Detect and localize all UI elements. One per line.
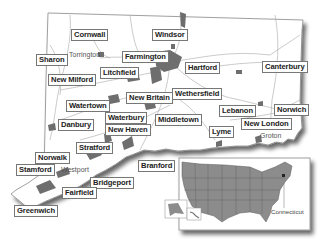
label-lyme: Lyme bbox=[209, 126, 234, 138]
label-connecticut-inset: Connecticut bbox=[271, 208, 304, 215]
label-new-britain: New Britain bbox=[126, 92, 173, 104]
label-cornwall: Cornwall bbox=[71, 29, 108, 41]
label-fairfield: Fairfield bbox=[62, 187, 97, 199]
label-litchfield: Litchfield bbox=[100, 67, 139, 79]
label-middletown: Middletown bbox=[155, 114, 202, 126]
label-new-haven: New Haven bbox=[105, 124, 151, 136]
connecticut-highlight bbox=[282, 174, 285, 177]
label-lebanon: Lebanon bbox=[219, 105, 256, 117]
us-inset-map bbox=[165, 158, 310, 230]
label-danbury: Danbury bbox=[58, 119, 94, 131]
label-greenwich: Greenwich bbox=[14, 205, 58, 217]
label-new-milford: New Milford bbox=[48, 74, 96, 86]
label-stamford: Stamford bbox=[16, 164, 55, 176]
label-groton: Groton bbox=[260, 131, 281, 140]
label-windsor: Windsor bbox=[152, 29, 188, 41]
label-sharon: Sharon bbox=[36, 54, 68, 66]
label-waterbury: Waterbury bbox=[105, 112, 147, 124]
label-farmington: Farmington bbox=[122, 51, 169, 63]
label-westport: Westport bbox=[61, 165, 89, 174]
label-stratford: Stratford bbox=[76, 142, 113, 154]
label-canterbury: Canterbury bbox=[262, 61, 308, 73]
label-torrington: Torrington bbox=[69, 50, 100, 59]
label-norwich: Norwich bbox=[274, 104, 309, 116]
label-branford: Branford bbox=[138, 160, 175, 172]
label-hartford: Hartford bbox=[185, 62, 220, 74]
label-norwalk: Norwalk bbox=[35, 152, 70, 164]
label-wethersfield: Wethersfield bbox=[172, 88, 222, 100]
label-new-london: New London bbox=[241, 118, 292, 130]
label-watertown: Watertown bbox=[66, 100, 110, 112]
